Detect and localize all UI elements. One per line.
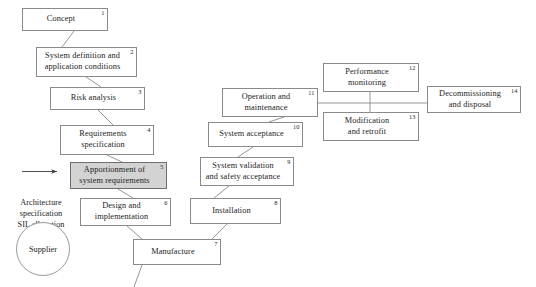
node-label: Requirements specification [64,129,142,150]
node-label: System definition and application condit… [40,51,125,72]
node-concept[interactable]: Concept 1 [22,8,108,31]
node-label: Installation [194,206,269,217]
node-number: 9 [287,159,290,165]
node-number: 7 [214,241,217,247]
node-system-acceptance[interactable]: System acceptance 10 [208,122,303,147]
connector-n9-n10 [238,147,253,157]
flowchart-canvas: Concept 1 System definition and applicat… [0,0,536,287]
node-system-validation-and-safety-acceptance[interactable]: System validation and safety acceptance … [200,157,294,186]
node-installation[interactable]: Installation 8 [190,198,281,224]
node-number: 4 [147,127,150,133]
node-number: 12 [409,65,416,71]
connector-n7-offpage [134,265,142,287]
node-number: 6 [164,200,167,206]
node-number: 11 [308,90,314,96]
node-label: System acceptance [212,129,291,140]
node-decommissioning-and-disposal[interactable]: Decommissioning and disposal 14 [427,86,521,113]
node-label: Risk analysis [54,93,133,104]
connector-group-bus [318,92,427,112]
node-performance-monitoring[interactable]: Performance monitoring 12 [323,63,419,92]
node-number: 5 [160,164,163,170]
node-risk-analysis[interactable]: Risk analysis 3 [50,87,145,110]
node-number: 1 [101,10,104,16]
node-number: 3 [138,89,141,95]
node-label: Operation and maintenance [226,92,306,113]
connector-n6-n7 [127,226,142,239]
connector-n1-n2 [62,31,74,47]
node-label: Manufacture [137,247,209,258]
node-label: Modification and retrofit [327,116,407,137]
node-label: Decommissioning and disposal [431,89,509,110]
node-design-and-implementation[interactable]: Design and implementation 6 [80,198,171,226]
node-operation-and-maintenance[interactable]: Operation and maintenance 11 [222,88,318,117]
node-supplier[interactable]: Supplier [16,222,70,276]
node-supplier-label: Supplier [29,245,57,254]
connector-n5-n6 [118,189,133,198]
node-modification-and-retrofit[interactable]: Modification and retrofit 13 [323,112,419,141]
node-label: System validation and safety acceptance [204,161,282,182]
node-label: Design and implementation [84,201,159,222]
node-system-definition[interactable]: System definition and application condit… [36,47,137,77]
connector-n4-n5 [107,155,122,162]
node-number: 13 [409,114,416,120]
node-apportionment-of-system-requirements[interactable]: Apportionment of system requirements 5 [70,162,167,189]
node-number: 8 [274,200,277,206]
connector-n7-n8 [212,224,227,239]
node-number: 10 [293,124,300,130]
connector-n8-n9 [214,186,229,198]
node-requirements-specification[interactable]: Requirements specification 4 [60,125,154,155]
node-number: 2 [130,49,133,55]
node-label: Performance monitoring [327,67,407,88]
node-number: 14 [511,88,518,94]
node-label: Concept [26,14,96,25]
node-manufacture[interactable]: Manufacture 7 [133,239,221,265]
node-label: Apportionment of system requirements [74,165,155,186]
connector-n3-n4 [98,110,113,125]
connector-n2-n3 [86,77,101,87]
